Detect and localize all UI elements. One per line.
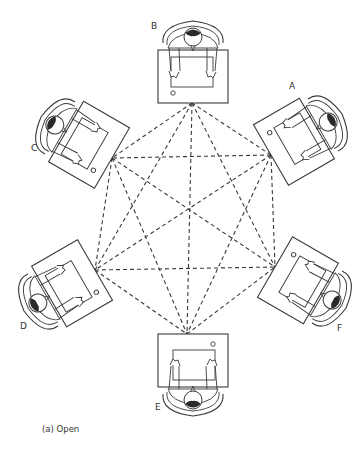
- station-label-d: D: [20, 321, 27, 331]
- station-label-b: B: [151, 21, 157, 31]
- station-F: [258, 237, 364, 339]
- station-C: [23, 87, 129, 189]
- station-label-c: C: [31, 143, 37, 153]
- station-E: [158, 334, 228, 416]
- station-B: [158, 21, 228, 103]
- station-label-f: F: [337, 323, 342, 333]
- station-A: [254, 84, 360, 186]
- figure-caption: (a) Open: [42, 424, 79, 434]
- station-label-e: E: [155, 402, 161, 412]
- communication-network-diagram: [0, 0, 364, 459]
- station-label-a: A: [289, 81, 295, 91]
